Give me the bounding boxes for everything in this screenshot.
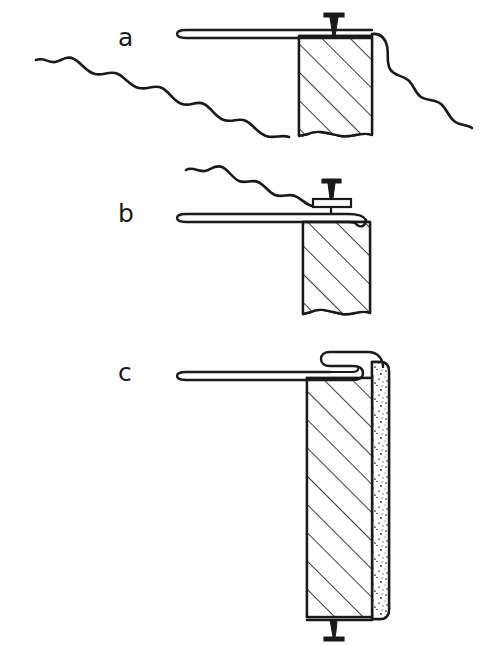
clip-nail-b (313, 179, 351, 214)
post-c-hatching (303, 374, 377, 622)
wire-attachment-diagram: a b (0, 0, 483, 645)
panel-a: a (36, 13, 472, 142)
clip-plate-b (313, 199, 351, 207)
wire-hook-c-inner (330, 369, 358, 372)
panel-c: c (118, 352, 394, 641)
ground-line-left (36, 58, 289, 137)
panel-a-label: a (118, 23, 133, 52)
ground-line-b (186, 166, 312, 206)
nail-c (307, 620, 372, 641)
wire-c (177, 372, 330, 380)
panel-b-label: b (118, 199, 134, 228)
nail-a (324, 13, 344, 36)
ground-line-right (372, 34, 472, 128)
wire-a (177, 30, 372, 38)
panel-c-label: c (118, 358, 132, 387)
post-b-hatching (299, 218, 375, 320)
post-a-hatching (295, 32, 377, 142)
panel-b: b (118, 166, 375, 320)
figure-root: a b (0, 0, 483, 645)
